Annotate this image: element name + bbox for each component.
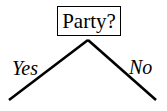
edge-label-no: No bbox=[129, 57, 152, 77]
edge-label-yes: Yes bbox=[12, 58, 38, 78]
decision-node-party: Party? bbox=[57, 6, 121, 36]
decision-node-label: Party? bbox=[62, 11, 116, 32]
